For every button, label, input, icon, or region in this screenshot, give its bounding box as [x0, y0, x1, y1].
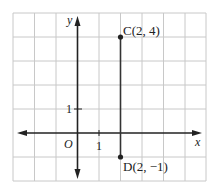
coordinate-plane: y x O 1 1 C(2, 4) D(2, −1): [0, 0, 217, 193]
x-axis-label: x: [194, 135, 201, 149]
x-axis: [17, 130, 202, 136]
grid: [13, 13, 206, 181]
y-axis-down-arrow-icon: [75, 169, 81, 179]
y-axis: [75, 16, 81, 179]
y-axis-up-arrow-icon: [75, 16, 81, 26]
x-axis-left-arrow-icon: [17, 130, 27, 136]
y-unit-label: 1: [66, 102, 72, 116]
y-axis-label: y: [66, 13, 73, 27]
point-d-label: D(2, −1): [123, 159, 168, 174]
point-c-label: C(2, 4): [123, 23, 160, 38]
origin-label: O: [64, 137, 73, 151]
x-unit-label: 1: [96, 139, 102, 153]
